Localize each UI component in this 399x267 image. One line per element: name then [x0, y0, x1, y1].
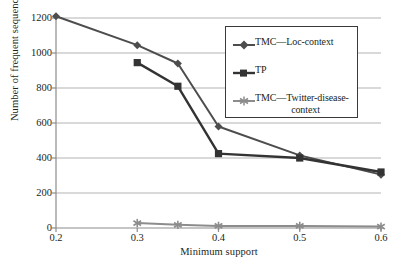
legend-label-line1: TMC—Twitter-disease- — [255, 92, 349, 103]
data-point-marker — [133, 41, 141, 49]
legend-item-tp: TP — [233, 64, 353, 77]
chart-figure: Number of frequent sequence Minimum supp… — [0, 0, 399, 267]
legend-item-tmc-twitter-disease-context: TMC—Twitter-disease-context — [233, 92, 353, 115]
legend-label-line2: context — [255, 104, 356, 116]
data-point-marker — [296, 154, 303, 161]
legend-label: TMC—Loc-context — [255, 36, 333, 48]
asterisk-marker-icon — [233, 93, 255, 105]
chart-legend: TMC—Loc-context TP — [225, 26, 358, 118]
legend-item-tmc-loc-context: TMC—Loc-context — [233, 36, 353, 49]
legend-label: TMC—Twitter-disease-context — [255, 92, 356, 115]
square-marker-icon — [233, 65, 255, 77]
data-point-marker — [215, 150, 222, 157]
data-point-marker — [174, 83, 181, 90]
diamond-marker-icon — [233, 37, 255, 49]
data-point-marker — [52, 12, 60, 20]
data-point-marker — [134, 59, 141, 66]
legend-label: TP — [255, 64, 266, 76]
data-point-marker — [377, 168, 384, 175]
